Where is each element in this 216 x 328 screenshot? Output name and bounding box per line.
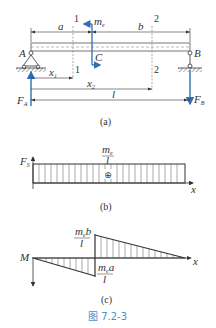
reaction-fb-label: FB	[193, 93, 205, 106]
dim-b-label: b	[138, 20, 144, 32]
fs-axis-label: FS	[19, 155, 30, 168]
positive-sign-icon: ⊕	[104, 170, 112, 180]
reaction-fa-label: FA	[16, 94, 28, 107]
x-axis-c-label: x	[192, 255, 198, 267]
support-b-label: B	[194, 47, 201, 59]
moment-peak-positive-numerator: meb	[75, 225, 92, 238]
moment-label: me	[94, 15, 105, 28]
moment-peak-negative-denominator: l	[103, 273, 106, 285]
section-1-bottom-label: 1	[75, 64, 80, 75]
dim-l-label: l	[112, 88, 115, 100]
panel-c-moment-diagram: M x meb l mea	[19, 225, 198, 306]
moment-peak-positive-denominator: l	[80, 237, 83, 249]
x-axis-label: x	[190, 183, 196, 195]
section-2-bottom-label: 2	[154, 64, 159, 75]
support-a-label: A	[18, 47, 26, 59]
panel-a: a b 1 1 2 2 me C A	[16, 13, 205, 128]
dim-x1-label: x1	[48, 66, 57, 79]
dim-a-label: a	[58, 20, 64, 32]
section-1-top-label: 1	[74, 13, 79, 24]
m-axis-label: M	[19, 251, 30, 263]
panel-b-caption: (b)	[100, 201, 112, 213]
section-2-top-label: 2	[154, 13, 159, 24]
panel-c-caption: (c)	[101, 294, 112, 306]
shear-value-denominator: l	[106, 154, 109, 166]
beam-diagram-figure: a b 1 1 2 2 me C A	[0, 0, 216, 328]
moment-positive-area	[95, 235, 185, 258]
panel-a-caption: (a)	[100, 116, 111, 128]
panel-b-shear-diagram: FS x ⊕ me l (b)	[19, 143, 196, 213]
dim-x2-label: x2	[86, 77, 95, 90]
moment-peak-negative-numerator: mea	[98, 261, 115, 274]
point-c-label: C	[95, 51, 103, 63]
figure-caption: 图 7.2-3	[88, 311, 127, 322]
